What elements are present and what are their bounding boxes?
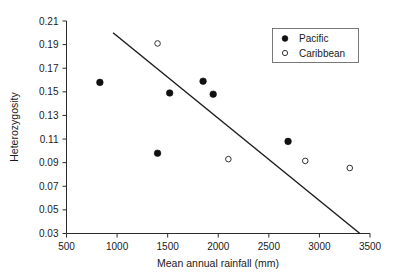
data-point-caribbean [155, 41, 161, 47]
y-tick-label: 0.03 [39, 228, 59, 239]
y-tick-label: 0.05 [39, 204, 59, 215]
legend-marker-caribbean [282, 50, 287, 55]
legend-label-caribbean: Caribbean [299, 48, 345, 59]
y-tick-label: 0.07 [39, 181, 59, 192]
legend-marker-pacific [282, 36, 288, 42]
data-point-pacific [166, 90, 173, 97]
x-tick-label: 2500 [258, 241, 281, 252]
x-axis-title: Mean annual rainfall (mm) [157, 257, 279, 269]
y-tick-label: 0.09 [39, 157, 59, 168]
x-tick-label: 1000 [106, 241, 129, 252]
y-axis-title: Heterozygosity [8, 92, 20, 162]
data-point-caribbean [347, 165, 353, 171]
data-point-pacific [285, 138, 292, 145]
data-point-caribbean [226, 156, 232, 162]
x-tick-label: 500 [58, 241, 75, 252]
y-tick-label: 0.15 [39, 86, 59, 97]
series-pacific-points [97, 78, 292, 157]
x-tick-label: 1500 [157, 241, 180, 252]
data-point-caribbean [302, 158, 308, 164]
scatter-plot: 0.030.050.070.090.110.130.150.170.190.21… [0, 0, 394, 280]
x-tick-label: 3500 [359, 241, 382, 252]
x-tick-label: 3000 [308, 241, 331, 252]
data-point-pacific [154, 150, 161, 157]
chart-legend: Pacific Caribbean [273, 29, 359, 63]
data-point-pacific [200, 78, 207, 85]
x-tick-label: 2000 [207, 241, 230, 252]
y-tick-label: 0.11 [40, 134, 59, 145]
x-axis-ticks: 500100015002000250030003500 [58, 234, 381, 252]
chart-figure: 0.030.050.070.090.110.130.150.170.190.21… [0, 0, 394, 280]
y-tick-label: 0.21 [39, 16, 59, 27]
y-axis-ticks: 0.030.050.070.090.110.130.150.170.190.21 [39, 16, 66, 240]
legend-label-pacific: Pacific [299, 33, 328, 44]
data-point-pacific [210, 91, 217, 98]
y-tick-label: 0.19 [39, 39, 59, 50]
data-point-pacific [97, 79, 104, 86]
y-tick-label: 0.13 [39, 110, 59, 121]
y-tick-label: 0.17 [39, 63, 59, 74]
